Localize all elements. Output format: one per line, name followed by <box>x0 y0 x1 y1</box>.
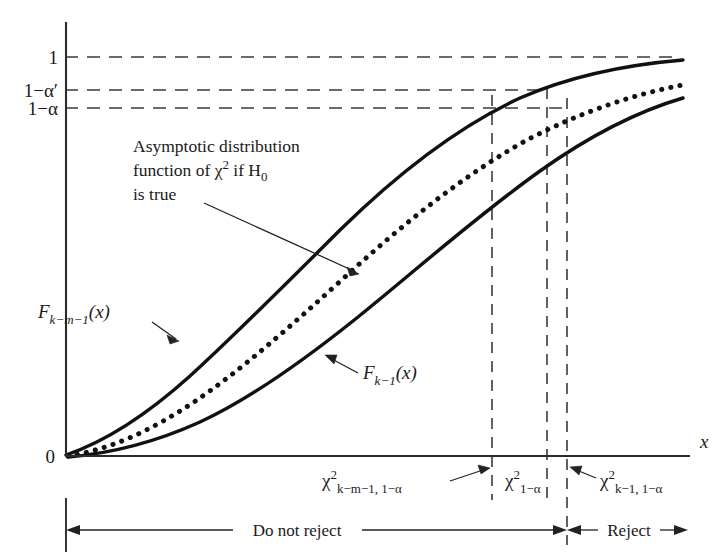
annotation-line-2-pre: function of χ <box>133 160 223 180</box>
do-not-reject-arrowhead-left <box>66 525 80 535</box>
reject-arrowhead-right <box>674 525 688 535</box>
critical-value-chi2-k-1-subscript: k−1, 1−α <box>615 481 663 496</box>
figure-canvas: 1 1−α′ 1−α 0 x Asymptotic distribution f… <box>0 0 725 560</box>
curve-f-k-m-1 <box>66 60 683 455</box>
annotation-line-3: is true <box>133 184 176 204</box>
curve-label-f-k-m-1-tail: (x) <box>89 301 110 323</box>
x-axis-label: x <box>699 431 709 452</box>
annotation-line-2-mid: if H <box>229 160 261 180</box>
reject-label: Reject <box>607 521 651 540</box>
critical-value-chi2-1-alpha-superscript: 2 <box>513 467 520 482</box>
critical-value-chi2-k-m-1-subscript: k−m−1, 1−α <box>337 481 402 496</box>
do-not-reject-label: Do not reject <box>253 521 342 540</box>
critical-value-label-chi2-1-alpha: χ21−α <box>504 467 541 496</box>
curve-label-f-k-1-base: F <box>362 362 375 383</box>
annotation-line-2: function of χ2 if H0 <box>133 157 268 184</box>
curve-label-f-k-m-1-leader <box>152 322 176 339</box>
curve-label-f-k-1-tail: (x) <box>396 362 417 384</box>
critical-value-label-chi2-k-m-1-1-alpha: χ2k−m−1, 1−α <box>321 467 402 496</box>
origin-label: 0 <box>46 446 56 467</box>
y-tick-label-one-minus-alpha: 1−α <box>28 98 58 119</box>
critical-value-label-chi2-k-1-1-alpha: χ2k−1, 1−α <box>599 467 663 496</box>
critical-value-chi2-k-m-1-arrowhead <box>478 465 490 474</box>
curve-label-f-k-m-1: Fk−m−1(x) <box>37 301 110 327</box>
critical-value-chi2-1-alpha-subscript: 1−α <box>520 481 541 496</box>
curve-label-f-k-1-subscript: k−1 <box>375 373 396 388</box>
curve-label-f-k-m-1-base: F <box>37 301 50 322</box>
annotation-line-2-subscript: 0 <box>261 169 268 184</box>
critical-value-chi2-k-1-arrowhead <box>570 466 582 475</box>
curve-label-f-k-m-1-subscript: k−m−1 <box>50 312 89 327</box>
curve-label-f-k-1-arrowhead <box>325 355 337 364</box>
y-tick-label-one: 1 <box>49 47 59 68</box>
critical-value-chi2-k-m-1-superscript: 2 <box>330 467 337 482</box>
curve-label-f-k-1: Fk−1(x) <box>362 362 417 388</box>
critical-value-chi2-k-1-superscript: 2 <box>608 467 615 482</box>
chi-squared-cdf-figure: 1 1−α′ 1−α 0 x Asymptotic distribution f… <box>0 0 725 560</box>
reject-arrowhead-left <box>567 525 581 535</box>
do-not-reject-arrowhead-right <box>553 525 567 535</box>
annotation-line-1: Asymptotic distribution <box>133 136 300 156</box>
